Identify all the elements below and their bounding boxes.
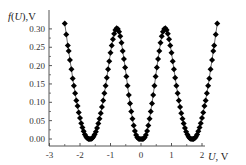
data-point-marker bbox=[128, 108, 134, 114]
data-point-marker bbox=[70, 75, 76, 81]
data-point-marker bbox=[169, 50, 175, 56]
data-point-marker bbox=[176, 97, 182, 103]
data-point-marker bbox=[129, 116, 135, 122]
data-point-marker bbox=[117, 33, 123, 39]
data-point-marker bbox=[179, 116, 185, 122]
data-point-marker bbox=[149, 100, 155, 106]
data-point-marker bbox=[109, 42, 115, 48]
data-point-marker bbox=[66, 48, 72, 54]
data-point-marker bbox=[204, 90, 210, 96]
data-point-marker bbox=[155, 56, 161, 62]
data-point-marker bbox=[76, 110, 82, 116]
x-axis: -3-2-1012 bbox=[46, 143, 205, 160]
data-point-marker bbox=[201, 103, 207, 109]
data-point-marker bbox=[200, 110, 206, 116]
x-tick-label: -3 bbox=[46, 150, 54, 160]
data-point-marker bbox=[150, 92, 156, 98]
x-tick-label: -1 bbox=[107, 150, 115, 160]
data-point-marker bbox=[172, 75, 178, 81]
data-point-marker bbox=[95, 121, 101, 127]
data-point-marker bbox=[77, 115, 83, 121]
data-point-marker bbox=[158, 40, 164, 46]
x-axis-title: U, V bbox=[208, 151, 229, 162]
data-point-marker bbox=[101, 90, 107, 96]
y-tick-label: 0.20 bbox=[29, 61, 45, 71]
data-point-marker bbox=[106, 58, 112, 64]
y-tick-label: 0.15 bbox=[29, 79, 45, 89]
data-point-marker bbox=[170, 58, 176, 64]
data-point-marker bbox=[125, 83, 131, 89]
x-tick-label: 1 bbox=[169, 150, 174, 160]
data-point-marker bbox=[175, 90, 181, 96]
y-tick-label: 0.25 bbox=[29, 42, 45, 52]
chart: 0.000.050.100.150.200.250.30 -3-2-1012 f… bbox=[0, 0, 246, 165]
data-point-marker bbox=[153, 74, 159, 80]
data-point-marker bbox=[78, 120, 84, 126]
data-point-marker bbox=[210, 48, 216, 54]
data-point-marker bbox=[156, 48, 162, 54]
data-point-marker bbox=[213, 31, 219, 37]
data-point-marker bbox=[171, 66, 177, 72]
data-point-marker bbox=[108, 50, 114, 56]
data-point-marker bbox=[103, 83, 109, 89]
y-axis-title: f(U),V bbox=[8, 11, 36, 23]
data-point-marker bbox=[72, 90, 78, 96]
data-point-marker bbox=[127, 100, 133, 106]
data-point-marker bbox=[159, 33, 165, 39]
data-series bbox=[62, 20, 221, 142]
data-point-marker bbox=[166, 36, 172, 42]
data-point-marker bbox=[203, 97, 209, 103]
data-point-marker bbox=[131, 122, 137, 128]
data-point-marker bbox=[208, 66, 214, 72]
data-point-marker bbox=[104, 75, 110, 81]
data-point-marker bbox=[65, 42, 71, 48]
data-point-marker bbox=[63, 31, 69, 37]
data-point-marker bbox=[205, 83, 211, 89]
data-point-marker bbox=[181, 121, 187, 127]
x-tick-label: -2 bbox=[76, 150, 84, 160]
y-tick-label: 0.05 bbox=[29, 116, 45, 126]
data-point-marker bbox=[110, 36, 116, 42]
data-point-marker bbox=[209, 57, 215, 63]
y-axis: 0.000.050.100.150.200.250.30 bbox=[29, 10, 52, 146]
data-point-marker bbox=[99, 104, 105, 110]
data-point-marker bbox=[123, 74, 129, 80]
data-point-marker bbox=[120, 48, 126, 54]
data-point-marker bbox=[68, 66, 74, 72]
data-point-marker bbox=[211, 42, 217, 48]
series-line bbox=[65, 23, 218, 139]
data-point-marker bbox=[97, 116, 103, 122]
data-point-marker bbox=[178, 110, 184, 116]
data-point-marker bbox=[100, 97, 106, 103]
data-point-marker bbox=[145, 122, 151, 128]
data-point-marker bbox=[151, 83, 157, 89]
data-point-marker bbox=[154, 64, 160, 70]
data-point-marker bbox=[177, 104, 183, 110]
data-point-marker bbox=[198, 120, 204, 126]
data-point-marker bbox=[73, 97, 79, 103]
data-point-marker bbox=[148, 108, 154, 114]
data-point-marker bbox=[147, 116, 153, 122]
data-point-marker bbox=[118, 40, 124, 46]
data-point-marker bbox=[199, 115, 205, 121]
y-tick-label: 0.30 bbox=[29, 24, 45, 34]
data-point-marker bbox=[126, 92, 132, 98]
data-point-marker bbox=[67, 57, 73, 63]
data-point-marker bbox=[105, 66, 111, 72]
data-point-marker bbox=[62, 20, 68, 26]
data-point-marker bbox=[167, 42, 173, 48]
y-tick-label: 0.10 bbox=[29, 97, 45, 107]
data-point-marker bbox=[71, 83, 77, 89]
x-tick-label: 0 bbox=[139, 150, 144, 160]
data-point-marker bbox=[206, 75, 212, 81]
x-tick-label: 2 bbox=[200, 150, 205, 160]
data-point-marker bbox=[98, 110, 104, 116]
data-point-marker bbox=[214, 20, 220, 26]
data-point-marker bbox=[121, 56, 127, 62]
data-point-marker bbox=[75, 103, 81, 109]
y-tick-label: 0.00 bbox=[29, 134, 45, 144]
data-point-marker bbox=[122, 64, 128, 70]
data-point-marker bbox=[173, 83, 179, 89]
